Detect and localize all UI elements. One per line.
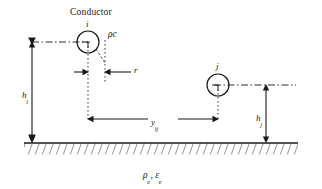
conductor-i-center-mark	[82, 42, 88, 48]
conductor-i-label: i	[86, 20, 89, 29]
conductor-j-center-mark	[212, 85, 218, 91]
height-i-label: hi	[22, 85, 28, 104]
height-j-subscript: j	[260, 121, 262, 128]
height-j-arrowhead-bottom	[263, 137, 269, 144]
earth-rho-subscript: e	[147, 178, 150, 185]
conductor-title-label: Conductor	[70, 8, 112, 18]
radius-label: r	[134, 66, 138, 75]
separation-label: yij	[151, 112, 159, 131]
earth-parameters-label: ρe, εe	[143, 165, 162, 184]
ground-hatching	[24, 143, 298, 154]
separation-subscript: ij	[155, 125, 159, 132]
earth-epsilon-subscript: e	[159, 178, 162, 185]
height-j-dimension	[263, 84, 269, 143]
conductor-j-label: j	[216, 62, 219, 71]
earth-surface-group	[24, 143, 298, 154]
conductor-resistivity-label: ρc	[108, 30, 117, 40]
radius-arrowhead-right	[104, 69, 111, 75]
conductor-i-group	[77, 31, 105, 63]
height-j-label: hj	[256, 108, 262, 127]
separation-arrowhead-left	[87, 116, 94, 122]
height-i-arrowhead-bottom	[29, 137, 35, 144]
height-i-subscript: i	[26, 98, 28, 105]
diagram-canvas	[0, 0, 322, 189]
separation-arrowhead-right	[213, 116, 220, 122]
conductor-earth-diagram: Conductor i ρc j r hi hj yij ρe, εe	[0, 0, 322, 189]
conductor-i-rhoc-leader	[96, 49, 105, 63]
height-i-dimension	[29, 41, 35, 143]
radius-dimension	[74, 69, 131, 75]
